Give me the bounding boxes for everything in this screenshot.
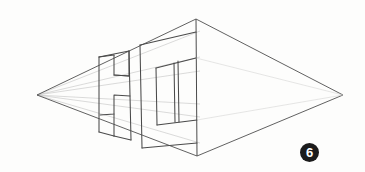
drawing-page: 6 — [0, 0, 365, 172]
figure-number-badge: 6 — [300, 143, 319, 162]
